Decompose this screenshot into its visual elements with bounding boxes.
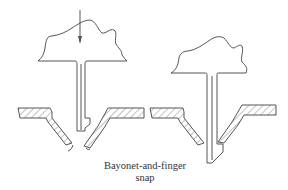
right-wall-left <box>150 108 204 145</box>
caption-line-1: Bayonet-and-finger <box>90 160 200 172</box>
figure-caption: Bayonet-and-finger snap <box>90 160 200 184</box>
right-wall-right <box>218 105 276 143</box>
deflection-arrow-left <box>68 145 73 151</box>
left-wall-left <box>18 108 72 145</box>
left-figure <box>18 10 144 151</box>
left-wall-right <box>84 108 144 148</box>
caption-line-2: snap <box>90 172 200 184</box>
right-figure <box>150 37 276 163</box>
arrow-down-icon <box>78 36 82 44</box>
right-part-body <box>171 37 247 163</box>
